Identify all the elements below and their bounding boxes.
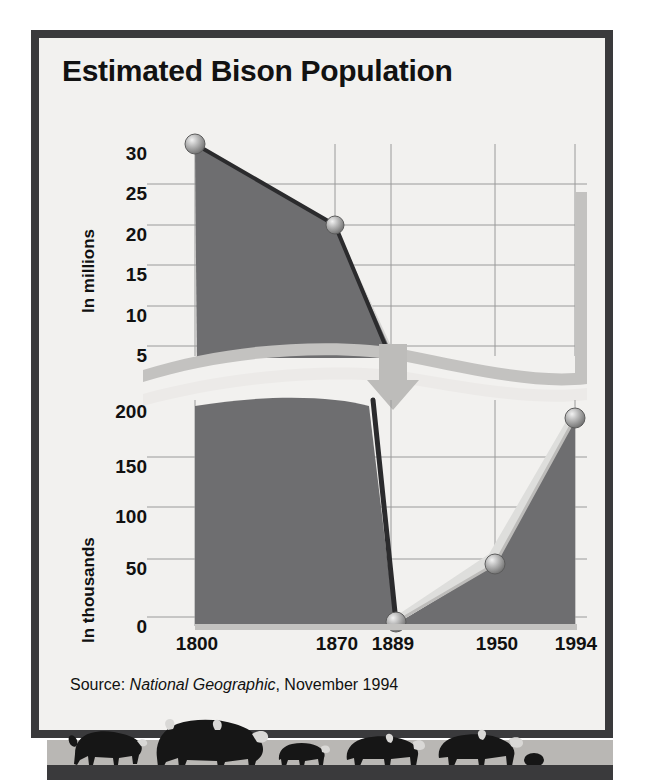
y-tick-lower-50: 50: [91, 559, 147, 578]
x-tick-1800: 1800: [157, 634, 237, 653]
source-suffix: , November 1994: [275, 676, 398, 693]
lower-area-fill-left: [195, 398, 395, 624]
x-tick-1994: 1994: [536, 634, 616, 653]
bison-silhouettes: [47, 708, 613, 768]
y-tick-upper-15: 15: [91, 265, 147, 284]
data-point-sphere-1800[interactable]: [185, 134, 205, 154]
y-tick-lower-100: 100: [91, 507, 147, 526]
upper-panel: [147, 134, 587, 380]
y-tick-lower-200: 200: [91, 402, 147, 421]
chart-plot-area: In millions In thousands 30 25 20 15 10 …: [47, 88, 597, 658]
break-ribbon-right-edge: [575, 192, 587, 384]
page-title: Estimated Bison Population: [62, 51, 582, 91]
source-credit: Source: National Geographic, November 19…: [70, 676, 398, 694]
x-tick-1950: 1950: [457, 634, 537, 653]
lower-area-fill-right: [396, 418, 575, 624]
y-tick-lower-150: 150: [91, 457, 147, 476]
y-tick-upper-30: 30: [91, 144, 147, 163]
y-tick-upper-10: 10: [91, 306, 147, 325]
y-tick-upper-5: 5: [91, 346, 147, 365]
bison-icon-1: [67, 731, 147, 765]
upper-area-fill: [195, 144, 395, 378]
data-point-sphere-1870[interactable]: [326, 216, 344, 234]
source-publication: National Geographic: [130, 676, 276, 693]
bison-icon-2: [157, 719, 268, 768]
y-tick-upper-25: 25: [91, 184, 147, 203]
bison-icon-5: [439, 730, 544, 767]
source-prefix: Source:: [70, 676, 130, 693]
figure-frame: Estimated Bison Population In millions I…: [31, 30, 613, 738]
data-point-sphere-1950[interactable]: [485, 554, 505, 574]
lower-panel: [147, 398, 587, 632]
data-point-sphere-1994[interactable]: [565, 408, 585, 428]
x-tick-1889: 1889: [353, 634, 433, 653]
y-tick-lower-0: 0: [91, 617, 147, 636]
bison-icon-4: [347, 734, 425, 766]
bison-herd-illustration: [47, 708, 613, 780]
bison-icon-3: [279, 743, 330, 766]
baseline-band: [47, 765, 613, 780]
y-tick-upper-20: 20: [91, 225, 147, 244]
lower-baseline-shadow: [195, 624, 577, 630]
